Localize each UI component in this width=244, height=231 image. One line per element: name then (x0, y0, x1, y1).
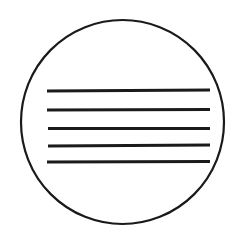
horizontal-line-4 (48, 145, 210, 146)
horizontal-line-5 (47, 162, 210, 163)
horizontal-line-2 (47, 110, 210, 111)
drawing-canvas (0, 0, 244, 231)
figure-circle-with-lines (0, 0, 244, 231)
canvas-background (0, 0, 244, 231)
horizontal-line-1 (47, 90, 210, 91)
